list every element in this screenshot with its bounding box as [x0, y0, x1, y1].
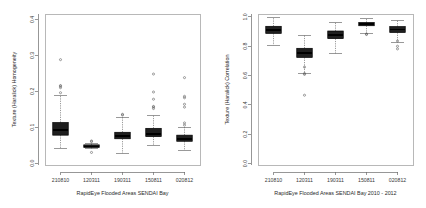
y-tick-label: 0.8: [242, 43, 248, 50]
boxplot-group: [359, 18, 375, 35]
box-iqr: [146, 128, 162, 136]
boxplot-group: [328, 23, 344, 54]
outlier-point: [303, 94, 305, 96]
y-tick-label: 0.2: [242, 130, 248, 137]
boxplot-group: [115, 113, 131, 153]
boxplot-group: [390, 20, 406, 50]
y-tick-label: 0.2: [29, 88, 35, 95]
outlier-point: [90, 151, 92, 153]
x-axis-title: RapidEye Flooded Areas SENDAI Bay 2010 -…: [274, 190, 396, 196]
outlier-point: [396, 48, 398, 50]
plot-frame: [45, 14, 200, 165]
boxplot-group: [266, 18, 282, 45]
y-tick-label: 0.3: [29, 52, 35, 59]
boxplot-figure: 0.00.10.20.30.4Texture (Haralick) Homoge…: [0, 0, 426, 208]
outlier-point: [183, 95, 185, 97]
x-tick-label: 120311: [83, 177, 100, 183]
outlier-point: [183, 77, 185, 79]
x-tick-label: 210810: [265, 177, 282, 183]
outlier-point: [152, 91, 154, 93]
outlier-point: [183, 124, 185, 126]
y-axis-title: Texture (Haralick) Correlation: [224, 54, 230, 124]
boxplot-group: [84, 140, 100, 154]
boxplot-group: [297, 35, 313, 96]
left-plot-canvas: 0.00.10.20.30.4Texture (Haralick) Homoge…: [0, 0, 213, 208]
x-tick-label: 120311: [296, 177, 313, 183]
y-tick-label: 0.0: [29, 159, 35, 166]
boxplot-group: [53, 59, 69, 148]
outlier-point: [152, 98, 154, 100]
y-tick-label: 0.4: [242, 101, 248, 108]
y-tick-label: 1.0: [242, 13, 248, 20]
panel-left-homogeneity: 0.00.10.20.30.4Texture (Haralick) Homoge…: [0, 0, 213, 208]
x-axis-title: RapidEye Flooded Areas SENDAI Bay: [77, 190, 169, 196]
x-tick-label: 190311: [114, 177, 131, 183]
outlier-point: [59, 59, 61, 61]
outlier-point: [396, 45, 398, 47]
y-axis-title: Texture (Haralick) Homogeneity: [11, 51, 17, 127]
outlier-point: [59, 92, 61, 94]
outlier-point: [183, 122, 185, 124]
x-tick-label: 020812: [389, 177, 406, 183]
box-iqr: [53, 123, 69, 136]
boxplot-group: [177, 77, 193, 151]
x-tick-label: 020812: [176, 177, 193, 183]
y-tick-label: 0.4: [29, 16, 35, 23]
x-tick-label: 190311: [327, 177, 344, 183]
boxplot-group: [146, 73, 162, 145]
right-plot-canvas: 0.00.20.40.60.81.0Texture (Haralick) Cor…: [213, 0, 426, 208]
x-tick-label: 210810: [52, 177, 69, 183]
y-tick-label: 0.6: [242, 72, 248, 79]
panel-right-correlation: 0.00.20.40.60.81.0Texture (Haralick) Cor…: [213, 0, 426, 208]
outlier-point: [152, 73, 154, 75]
y-tick-label: 0.0: [242, 160, 248, 167]
outlier-point: [183, 103, 185, 105]
x-tick-label: 150811: [145, 177, 162, 183]
y-tick-label: 0.1: [29, 124, 35, 131]
x-tick-label: 150811: [358, 177, 375, 183]
outlier-point: [183, 106, 185, 108]
